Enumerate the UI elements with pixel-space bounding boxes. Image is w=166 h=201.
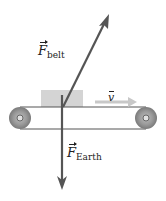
left-pulley: [9, 107, 31, 129]
force-belt-label: Fbelt: [38, 40, 65, 60]
velocity-label: v: [108, 86, 114, 105]
force-earth-arrow: [57, 95, 67, 190]
conveyor-belt: [20, 107, 146, 129]
force-earth-label: FEarth: [67, 142, 102, 162]
force-belt-arrow: [63, 14, 109, 107]
right-pulley: [135, 107, 157, 129]
conveyor-diagram: [0, 0, 166, 201]
velocity-arrow: [95, 97, 137, 107]
